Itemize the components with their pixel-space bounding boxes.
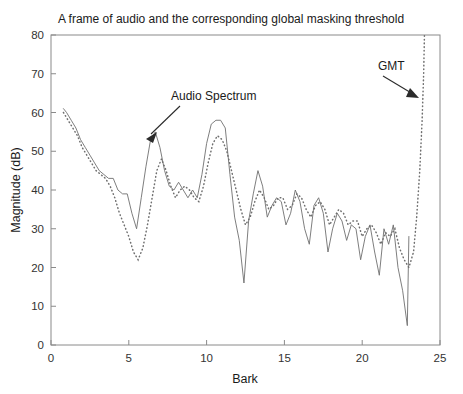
x-tick-label: 0 xyxy=(48,352,54,364)
x-tick-label: 20 xyxy=(356,352,369,364)
chart-canvas: A frame of audio and the corresponding g… xyxy=(0,0,463,394)
y-tick-label: 80 xyxy=(31,29,44,41)
y-axis-ticks: 01020304050607080 xyxy=(31,29,56,351)
annotation-audio-spectrum-arrow xyxy=(151,106,180,134)
x-axis-label: Bark xyxy=(232,372,258,386)
y-tick-label: 20 xyxy=(31,262,44,274)
y-tick-label: 70 xyxy=(31,68,44,80)
plot-frame xyxy=(51,35,440,345)
x-tick-label: 5 xyxy=(126,352,132,364)
y-axis-label: Magnitude (dB) xyxy=(9,147,23,232)
annotation-audio-spectrum-label: Audio Spectrum xyxy=(171,89,256,103)
y-tick-label: 50 xyxy=(31,145,44,157)
figure-container: A frame of audio and the corresponding g… xyxy=(0,0,463,394)
annotation-gmt-arrow xyxy=(383,76,413,94)
chart-title: A frame of audio and the corresponding g… xyxy=(58,12,404,26)
x-tick-label: 10 xyxy=(200,352,213,364)
x-tick-label: 15 xyxy=(278,352,291,364)
y-tick-label: 30 xyxy=(31,223,44,235)
x-tick-label: 25 xyxy=(434,352,447,364)
y-tick-label: 40 xyxy=(31,184,44,196)
annotation-gmt-label: GMT xyxy=(378,59,405,73)
x-axis-ticks: 0510152025 xyxy=(48,340,447,364)
y-tick-label: 0 xyxy=(38,339,44,351)
series-line-gmt xyxy=(63,35,424,268)
y-tick-label: 10 xyxy=(31,300,44,312)
y-tick-label: 60 xyxy=(31,107,44,119)
annotation-gmt-arrowhead xyxy=(406,88,419,98)
series-line-audio-spectrum xyxy=(63,109,408,326)
